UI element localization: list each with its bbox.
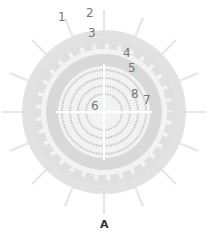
label-1: 1 bbox=[58, 11, 66, 23]
label-4: 4 bbox=[123, 47, 131, 59]
label-5: 5 bbox=[128, 62, 136, 74]
virus-cross-section-graphic bbox=[0, 0, 211, 245]
label-3: 3 bbox=[88, 27, 96, 39]
label-8: 8 bbox=[131, 88, 139, 100]
label-2: 2 bbox=[86, 7, 94, 19]
label-6: 6 bbox=[91, 100, 99, 112]
figure-caption: A bbox=[100, 218, 109, 231]
virus-diagram: 1 2 3 4 5 6 7 8 A bbox=[0, 0, 211, 245]
label-7: 7 bbox=[143, 94, 151, 106]
